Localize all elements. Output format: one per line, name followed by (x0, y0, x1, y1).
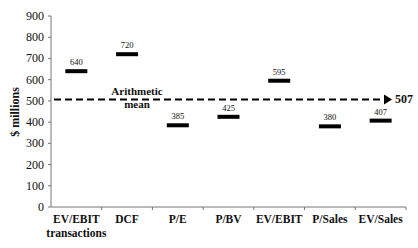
y-tick-label: 400 (26, 115, 44, 129)
value-marker (116, 52, 138, 56)
valuation-chart: 0100200300400500600700800900 EV/EBITtran… (0, 0, 418, 248)
x-axis: EV/EBITtransactionsDCFP/EP/BVEV/EBITP/Sa… (46, 207, 406, 239)
y-tick-label: 200 (26, 158, 44, 172)
value-label: 385 (171, 111, 184, 121)
category-label: EV/EBIT (53, 213, 100, 225)
category-label: DCF (115, 213, 139, 225)
y-tick-label: 700 (26, 51, 44, 65)
y-tick-label: 500 (26, 94, 44, 108)
y-tick-label: 600 (26, 73, 44, 87)
y-tick-label: 800 (26, 30, 44, 44)
value-marker (218, 115, 240, 119)
arrow-icon (384, 94, 392, 104)
value-label: 640 (70, 57, 83, 67)
value-marker (370, 119, 392, 123)
value-label: 595 (273, 67, 286, 77)
y-tick-label: 0 (38, 200, 44, 214)
category-label: EV/EBIT (256, 213, 303, 225)
value-label: 407 (374, 107, 387, 117)
value-label: 425 (222, 103, 235, 113)
mean-label: mean (124, 98, 150, 110)
mean-label: Arithmetic (111, 85, 162, 97)
value-marker (167, 123, 189, 127)
value-marker (268, 79, 290, 83)
y-tick-label: 900 (26, 9, 44, 23)
value-label: 720 (121, 40, 134, 50)
value-label: 380 (324, 112, 337, 122)
category-label: P/BV (215, 213, 242, 225)
category-label: transactions (46, 227, 107, 239)
y-tick-label: 100 (26, 179, 44, 193)
value-marker (319, 124, 341, 128)
category-label: P/Sales (312, 213, 348, 225)
data-markers: 640720385425595380407 (65, 40, 391, 128)
y-axis-title: $ millions (8, 87, 22, 137)
category-label: EV/Sales (359, 213, 404, 225)
value-marker (65, 69, 87, 73)
category-label: P/E (169, 213, 187, 225)
y-axis: 0100200300400500600700800900 (26, 9, 51, 214)
mean-value-label: 507 (395, 92, 413, 106)
y-tick-label: 300 (26, 136, 44, 150)
